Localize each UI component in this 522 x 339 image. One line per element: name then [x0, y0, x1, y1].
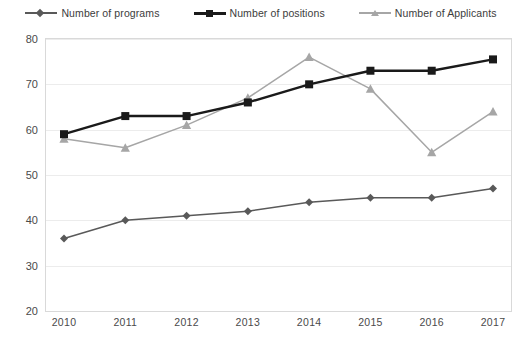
- plot-area: [45, 38, 512, 312]
- data-point-diamond: [428, 194, 436, 202]
- data-point-diamond: [305, 198, 313, 206]
- data-point-square: [183, 112, 191, 120]
- data-point-diamond: [60, 234, 68, 242]
- legend-label-applicants: Number of Applicants: [395, 7, 497, 19]
- x-tick-label: 2016: [402, 316, 462, 328]
- y-tick-label: 50: [0, 169, 38, 181]
- y-tick-label: 40: [0, 214, 38, 226]
- x-tick-label: 2012: [157, 316, 217, 328]
- data-point-triangle: [305, 53, 314, 62]
- x-tick-label: 2010: [34, 316, 94, 328]
- y-tick-label: 20: [0, 305, 38, 317]
- y-tick-label: 30: [0, 260, 38, 272]
- x-tick-label: 2017: [463, 316, 522, 328]
- data-point-square: [244, 98, 252, 106]
- data-point-triangle: [488, 107, 497, 116]
- legend-item-applicants[interactable]: Number of Applicants: [359, 7, 497, 19]
- legend-marker-square-icon: [194, 7, 226, 19]
- data-point-diamond: [183, 212, 191, 220]
- legend-label-positions: Number of positions: [230, 7, 325, 19]
- legend-item-positions[interactable]: Number of positions: [194, 7, 325, 19]
- data-point-diamond: [366, 194, 374, 202]
- legend-marker-triangle-icon: [359, 7, 391, 19]
- data-point-square: [121, 112, 129, 120]
- series-layer: [46, 39, 511, 311]
- chart-legend: Number of programs Number of positions N…: [0, 0, 522, 26]
- line-chart: Number of programs Number of positions N…: [0, 0, 522, 339]
- data-point-square: [489, 55, 497, 63]
- series-line: [64, 189, 493, 239]
- data-point-square: [428, 67, 436, 75]
- data-point-square: [305, 80, 313, 88]
- x-tick-label: 2011: [95, 316, 155, 328]
- y-tick-label: 70: [0, 78, 38, 90]
- legend-item-programs[interactable]: Number of programs: [25, 7, 159, 19]
- data-point-square: [60, 130, 68, 138]
- legend-marker-diamond-icon: [25, 7, 57, 19]
- x-tick-label: 2013: [218, 316, 278, 328]
- x-tick-label: 2015: [340, 316, 400, 328]
- x-tick-label: 2014: [279, 316, 339, 328]
- y-tick-label: 80: [0, 33, 38, 45]
- legend-label-programs: Number of programs: [61, 7, 159, 19]
- data-point-diamond: [489, 185, 497, 193]
- data-point-diamond: [244, 207, 252, 215]
- y-tick-label: 60: [0, 124, 38, 136]
- data-point-triangle: [182, 121, 191, 130]
- data-point-square: [366, 67, 374, 75]
- data-point-diamond: [121, 216, 129, 224]
- data-point-triangle: [366, 84, 375, 93]
